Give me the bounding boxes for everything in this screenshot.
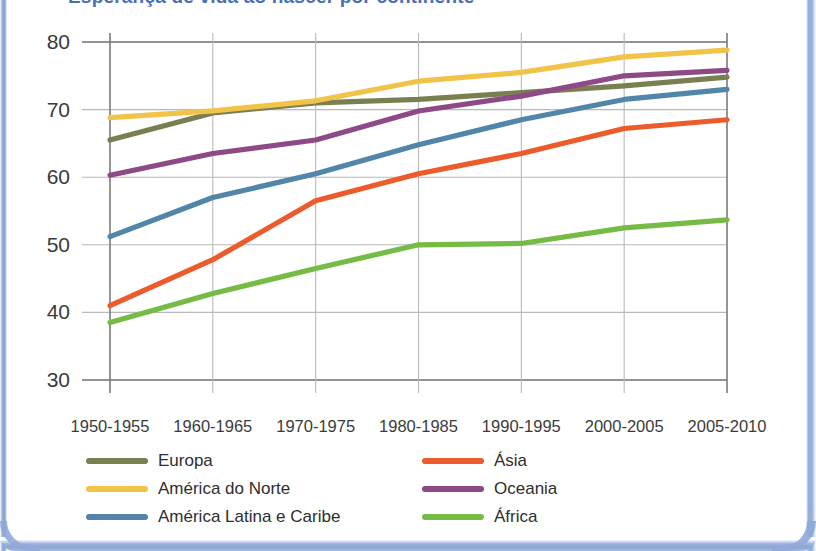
y-axis-tick-label: 60: [47, 165, 70, 188]
legend-color-swatch: [422, 486, 484, 492]
legend-item-label: Oceania: [494, 479, 557, 499]
chart-legend: EuropaAmérica do NorteAmérica Latina e C…: [0, 447, 816, 537]
x-axis-tick-label: 1980-1985: [379, 417, 458, 435]
line-chart-svg: 807060504030 1950-19551960-19651970-1975…: [0, 9, 816, 449]
legend-color-swatch: [86, 486, 148, 492]
legend-item-label: Europa: [158, 451, 213, 471]
x-axis-tick-label: 2005-2010: [688, 417, 767, 435]
legend-color-swatch: [86, 458, 148, 464]
chart-plot-area: 807060504030 1950-19551960-19651970-1975…: [0, 9, 816, 449]
card-edge-right: [806, 0, 816, 551]
legend-color-swatch: [86, 514, 148, 520]
x-axis-tick-label: 1970-1975: [276, 417, 355, 435]
page-title: Esperança de vida ao nascer por continen…: [68, 0, 474, 8]
figure-card: Esperança de vida ao nascer por continen…: [0, 0, 816, 551]
legend-color-swatch: [422, 514, 484, 520]
x-axis-tick-label: 1950-1955: [71, 417, 150, 435]
y-axis-tick-label: 50: [47, 233, 70, 256]
y-axis-tick-labels: 807060504030: [47, 30, 70, 391]
legend-item[interactable]: África: [422, 503, 557, 531]
chart-title-clipped: Esperança de vida ao nascer por continen…: [0, 0, 816, 9]
x-axis-tick-label: 1990-1995: [482, 417, 561, 435]
legend-item-label: Ásia: [494, 451, 527, 471]
y-axis-tick-label: 30: [47, 368, 70, 391]
x-axis-tick-labels: 1950-19551960-19651970-19751980-19851990…: [71, 417, 767, 435]
legend-item-label: África: [494, 507, 537, 527]
legend-item[interactable]: América do Norte: [86, 475, 340, 503]
y-axis-tick-label: 40: [47, 300, 70, 323]
legend-item-label: América do Norte: [158, 479, 290, 499]
card-edge-left: [0, 0, 7, 551]
legend-item[interactable]: Europa: [86, 447, 340, 475]
x-axis-tick-label: 2000-2005: [585, 417, 664, 435]
y-axis-tick-label: 80: [47, 30, 70, 53]
x-axis-tick-label: 1960-1965: [173, 417, 252, 435]
legend-column-left: EuropaAmérica do NorteAmérica Latina e C…: [86, 447, 340, 531]
legend-item[interactable]: Oceania: [422, 475, 557, 503]
card-edge-bottom: [0, 537, 816, 551]
legend-item-label: América Latina e Caribe: [158, 507, 340, 527]
legend-column-right: ÁsiaOceaniaÁfrica: [422, 447, 557, 531]
legend-color-swatch: [422, 458, 484, 464]
legend-item[interactable]: América Latina e Caribe: [86, 503, 340, 531]
legend-item[interactable]: Ásia: [422, 447, 557, 475]
y-axis-tick-label: 70: [47, 98, 70, 121]
